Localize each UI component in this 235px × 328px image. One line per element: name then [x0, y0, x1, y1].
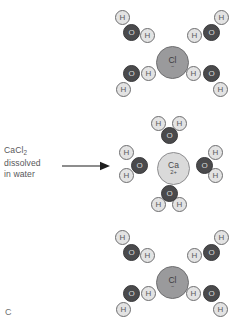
calcium-ion: Ca2+ [157, 152, 190, 185]
oxygen-atom: O [123, 244, 140, 261]
hydrogen-atom: H [115, 10, 130, 25]
hydrogen-atom: H [116, 302, 131, 317]
hydrogen-atom: H [208, 145, 223, 160]
caption-formula: CaCl [4, 145, 24, 155]
hydrogen-atom: H [213, 302, 228, 317]
oxygen-atom: O [131, 157, 148, 174]
caption-formula-subscript: 2 [24, 149, 28, 156]
oxygen-atom: O [203, 285, 220, 302]
hydrogen-atom: H [141, 286, 156, 301]
hydrogen-atom: H [187, 28, 202, 43]
hydrogen-atom: H [186, 66, 201, 81]
hydrogen-atom: H [115, 230, 130, 245]
oxygen-atom: O [123, 24, 140, 41]
chloride-ion: Cl− [156, 266, 189, 299]
hydrogen-atom: H [186, 286, 201, 301]
oxygen-atom: O [196, 157, 213, 174]
hydrated-chloride-top-cluster: H O H H O H Cl− O H H O H H [110, 2, 235, 108]
oxygen-atom: O [123, 285, 140, 302]
hydrogen-atom: H [116, 82, 131, 97]
dissolution-diagram: CaCl2 dissolved in water C H O H H O H C… [0, 0, 235, 328]
hydrogen-atom: H [119, 145, 134, 160]
caption-text: CaCl2 dissolved in water [4, 145, 60, 180]
hydrogen-atom: H [214, 10, 229, 25]
caption-line-dissolved: dissolved [4, 158, 41, 168]
oxygen-atom: O [203, 65, 220, 82]
hydrated-chloride-bottom-cluster: H O H H O H Cl− O H H O H H [110, 224, 235, 328]
caption-line-in-water: in water [4, 169, 35, 179]
oxygen-atom: O [203, 24, 220, 41]
chloride-ion: Cl− [156, 46, 189, 79]
hydrogen-atom: H [140, 248, 155, 263]
hydrogen-atom: H [141, 66, 156, 81]
oxygen-atom: O [161, 127, 178, 144]
hydrogen-atom: H [213, 82, 228, 97]
hydrated-calcium-cluster: H H O H H O Ca2+ H H O O H H [110, 112, 235, 220]
reaction-arrow-icon [62, 160, 110, 172]
hydrogen-atom: H [140, 28, 155, 43]
panel-letter: C [5, 307, 12, 317]
oxygen-atom: O [161, 185, 178, 202]
hydrogen-atom: H [187, 248, 202, 263]
oxygen-atom: O [203, 244, 220, 261]
hydrogen-atom: H [214, 230, 229, 245]
oxygen-atom: O [123, 65, 140, 82]
